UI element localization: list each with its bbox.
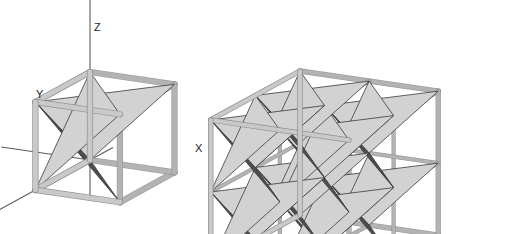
y-axis-label: Y [36, 88, 44, 100]
z-axis-label: Z [94, 21, 101, 33]
figure-root: X Y Z [0, 0, 514, 234]
x-axis-label: X [195, 142, 203, 154]
figure-svg: X Y Z [0, 0, 514, 234]
